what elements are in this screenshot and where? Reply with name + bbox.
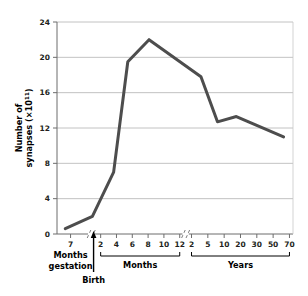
- x-tick-labels: 724681012251020305070: [68, 240, 295, 249]
- x-tick-label-months-4: 4: [114, 240, 119, 249]
- y-axis-title-line2-suffix: ): [24, 88, 34, 92]
- group-label-months: Months: [123, 260, 157, 270]
- y-axis-title-line2-prefix: synapses (×10: [24, 100, 34, 168]
- group-label-years: Years: [227, 260, 253, 270]
- chart-canvas: 04812162024 724681012251020305070 Number…: [0, 0, 308, 296]
- x-tick-label-gestation-7: 7: [68, 240, 73, 249]
- axis-break-1-mask: [182, 233, 188, 235]
- x-tick-label-years-10: 10: [219, 240, 229, 249]
- y-tick-label-8: 8: [45, 159, 50, 168]
- x-tick-label-months-10: 10: [159, 240, 169, 249]
- y-axis-title-line1: Number of: [14, 103, 24, 152]
- y-tick-label-0: 0: [45, 230, 50, 239]
- group-label-gestation-line1: Months: [53, 250, 87, 260]
- y-tick-label-20: 20: [40, 53, 50, 62]
- birth-annotation-label: Birth: [82, 275, 105, 285]
- y-tick-label-24: 24: [40, 18, 50, 27]
- y-tick-label-12: 12: [40, 124, 50, 133]
- x-tick-label-years-30: 30: [252, 240, 262, 249]
- y-axis-title-line2: synapses (×1011): [24, 88, 34, 167]
- x-tick-label-years-5: 5: [205, 240, 210, 249]
- x-tick-label-years-70: 70: [284, 240, 294, 249]
- y-tick-label-16: 16: [40, 88, 50, 97]
- synapse-density-chart: 04812162024 724681012251020305070 Number…: [0, 0, 308, 296]
- x-tick-label-years-20: 20: [235, 240, 245, 249]
- y-axis-title-exponent: 11: [24, 92, 30, 100]
- x-tick-label-months-2: 2: [98, 240, 103, 249]
- group-label-gestation-line2: gestation: [49, 261, 93, 271]
- y-tick-label-4: 4: [45, 194, 50, 203]
- x-tick-label-months-12: 12: [175, 240, 185, 249]
- x-tick-label-months-8: 8: [145, 240, 150, 249]
- x-tick-label-months-6: 6: [130, 240, 135, 249]
- x-tick-label-years-2: 2: [189, 240, 194, 249]
- x-tick-label-years-50: 50: [268, 240, 278, 249]
